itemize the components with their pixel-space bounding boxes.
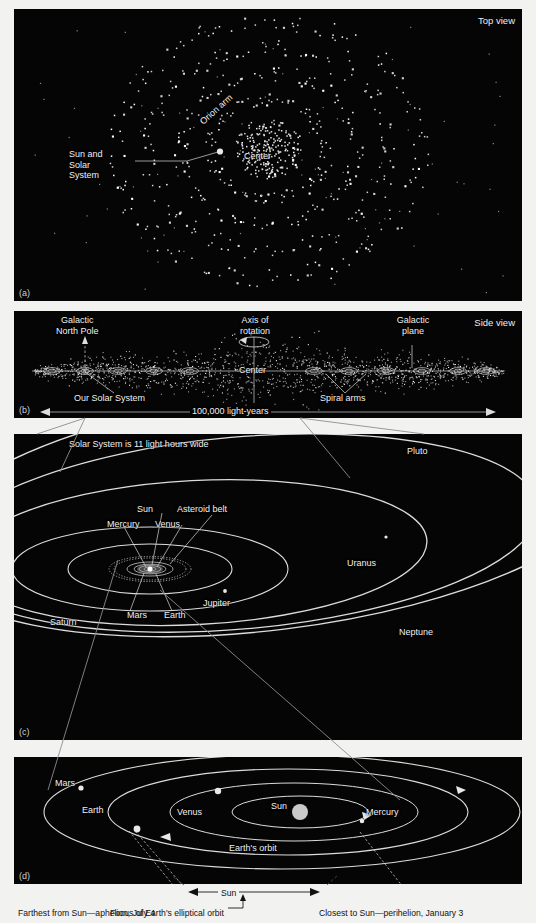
panel-a-top-view: Sun and Solar System Orion arm Center To…: [14, 9, 522, 301]
label-spiral-arms: Spiral arms: [320, 393, 366, 404]
panel-tag-b: (b): [19, 405, 30, 415]
label-line-2: North Pole: [56, 326, 99, 337]
orbit-earth-d: [108, 769, 468, 855]
perihelion-dashed-leader: [360, 832, 410, 884]
label-mars-c: Mars: [127, 610, 147, 621]
label-line-1: Galactic: [389, 315, 437, 326]
label-earth-c: Earth: [164, 610, 186, 621]
panel-tag-c: (c): [19, 727, 30, 737]
inner-solar-system-graphic: [14, 757, 522, 884]
scale-arrow-left: [40, 408, 50, 416]
label-earth-d: Earth: [82, 805, 104, 816]
view-tag-top: Top view: [478, 15, 515, 26]
caption-perihelion-line-1: Closest to Sun—perihelion, January 3: [319, 908, 463, 918]
label-line-2: plane: [389, 326, 437, 337]
label-sun-and-solar-system: Sun and Solar System: [69, 149, 103, 181]
label-galactic-center: Center: [244, 151, 271, 162]
planet-venus-d: [215, 788, 221, 794]
sun-body-d: [292, 804, 308, 820]
label-venus-d: Venus: [177, 807, 202, 818]
label-sun-c: Sun: [137, 504, 153, 515]
orbit-pluto: [14, 434, 522, 672]
focus-arrowhead: [240, 894, 246, 901]
planet-mars-d: [78, 785, 83, 790]
orbit-uranus: [14, 469, 431, 637]
planet-mercury-d: [360, 819, 365, 824]
label-galaxy-scale: 100,000 light-years: [190, 406, 271, 417]
label-earths-orbit: Earth's orbit: [229, 843, 277, 854]
label-line-1: Sun and: [69, 149, 103, 160]
caption-arrow-left: [188, 888, 198, 896]
sun-body: [147, 566, 152, 571]
panel-c-solar-system: Solar System is 11 light hours wide Sun …: [14, 434, 522, 740]
label-neptune-c: Neptune: [399, 627, 433, 638]
label-mercury-c: Mercury: [107, 519, 140, 530]
label-solar-system-width: Solar System is 11 light hours wide: [69, 439, 208, 450]
label-mercury-d: Mercury: [366, 807, 399, 818]
leader-earth: [156, 574, 172, 611]
planet-earth-d: [134, 826, 141, 833]
spiral-arms-leader-right: [345, 374, 366, 393]
label-galactic-north-pole: Galactic North Pole: [56, 315, 99, 336]
sun-position-marker: [217, 148, 223, 154]
figure-stage: Sun and Solar System Orion arm Center To…: [0, 0, 536, 923]
caption-focus: Focus of Earth's elliptical orbit: [110, 908, 224, 918]
label-center-side: Center: [239, 365, 266, 376]
leader-mercury: [123, 525, 146, 567]
label-venus-c: Venus: [155, 519, 180, 530]
caption-sun: Sun: [218, 888, 239, 898]
solar-system-orbits-graphic: [14, 434, 522, 740]
caption-perihelion: Closest to Sun—perihelion, January 3 147…: [319, 888, 463, 923]
view-tag-side: Side view: [474, 317, 515, 328]
label-our-solar-system: Our Solar System: [74, 393, 145, 404]
outer-direction-arrow: [456, 786, 466, 794]
label-line-2: Solar: [69, 160, 103, 171]
panel-d-inner-solar-system: Mars Earth Venus Sun Mercury Earth's orb…: [14, 757, 522, 884]
connector-b-to-c-left-2: [37, 418, 85, 434]
label-mars-d: Mars: [55, 778, 75, 789]
label-pluto-c: Pluto: [407, 446, 428, 457]
label-saturn-c: Saturn: [50, 617, 77, 628]
orbit-mars-d: [44, 757, 520, 869]
label-line-2: rotation: [227, 326, 283, 337]
panel-tag-d: (d): [19, 871, 30, 881]
label-sun-d: Sun: [271, 801, 287, 812]
aphelion-dashed-leader: [135, 831, 192, 884]
label-galactic-plane: Galactic plane: [389, 315, 437, 336]
label-axis-of-rotation: Axis of rotation: [227, 315, 283, 336]
planet-jupiter: [223, 589, 227, 593]
planet-uranus: [384, 535, 387, 538]
label-line-3: System: [69, 170, 103, 181]
sun-leader-diagonal: [187, 152, 218, 161]
earth-direction-arrow: [160, 833, 171, 841]
panel-tag-a: (a): [19, 288, 30, 298]
panel-b-side-view: Galactic North Pole Axis of rotation Gal…: [14, 311, 522, 418]
bottom-caption: Farthest from Sun—aphelion, July 4 152,0…: [0, 884, 536, 923]
north-pole-arrowhead: [82, 336, 88, 344]
label-line-1: Galactic: [56, 315, 99, 326]
label-uranus-c: Uranus: [347, 558, 376, 569]
label-line-1: Axis of: [227, 315, 283, 326]
label-jupiter-c: Jupiter: [203, 598, 230, 609]
connector-b-to-c-right: [300, 418, 424, 434]
label-asteroid-belt: Asteroid belt: [177, 504, 227, 515]
scale-arrow-right: [486, 408, 496, 416]
